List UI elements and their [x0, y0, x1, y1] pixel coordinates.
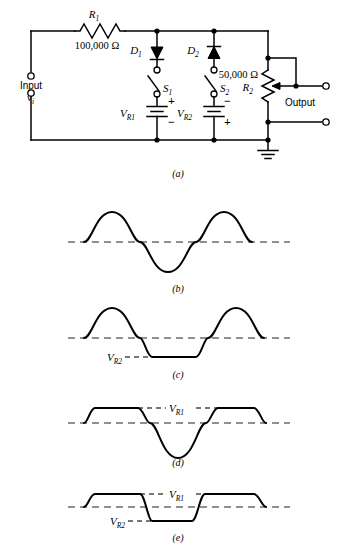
- waveform-panel-e: VR1 VR2 (e): [68, 488, 290, 544]
- vr2-plus-sign: +: [224, 115, 231, 129]
- junction-node-vr1-ground: [154, 137, 159, 142]
- input-label: Input: [20, 80, 42, 91]
- junction-node-vr2-ground: [211, 137, 216, 142]
- panel-c-vr2-label: VR2: [107, 351, 122, 366]
- s1-terminal-bottom: [154, 91, 160, 97]
- panel-e-vr1-label: VR1: [169, 488, 184, 503]
- r1-name-label: R1: [88, 8, 99, 23]
- resistor-r1-symbol: [75, 24, 125, 38]
- panel-a-id: (a): [172, 168, 184, 180]
- d1-label: D1: [129, 44, 142, 59]
- clipper-circuit-figure: Input vi R1 100,000 Ω D1 S1 + − VR1: [0, 0, 356, 553]
- output-terminal-bottom[interactable]: [323, 119, 329, 125]
- output-terminal-top[interactable]: [323, 83, 329, 89]
- r2-tap-loop: [268, 58, 296, 86]
- waveform-panel-c: VR2 (c): [68, 308, 290, 381]
- panel-e-id: (e): [172, 532, 184, 544]
- s2-blade[interactable]: [205, 76, 216, 91]
- r2-wiper-arrow: [272, 83, 280, 90]
- vr1-minus-sign: −: [168, 115, 175, 129]
- s2-terminal-bottom: [211, 91, 217, 97]
- output-label: Output: [285, 97, 315, 108]
- circuit-schematic: Input vi R1 100,000 Ω D1 S1 + − VR1: [20, 8, 329, 180]
- s1-blade[interactable]: [148, 76, 159, 91]
- panel-d-vr1-label: VR1: [169, 402, 184, 417]
- panel-b-id: (b): [172, 283, 184, 295]
- r2-name-label: R2: [242, 81, 254, 96]
- vr1-label: VR1: [120, 107, 135, 122]
- d2-triangle: [208, 47, 220, 59]
- d1-triangle: [151, 47, 163, 59]
- r2-value-label: 50,000 Ω: [219, 69, 259, 80]
- waveform-panel-b: (b): [68, 212, 290, 295]
- input-terminal-top[interactable]: [28, 73, 34, 79]
- panel-e-vr2-label: VR2: [110, 515, 125, 530]
- d2-label: D2: [186, 44, 199, 59]
- panel-c-clipped-curve: [84, 308, 264, 357]
- vr2-label: VR2: [177, 107, 192, 122]
- panel-d-id: (d): [172, 457, 184, 469]
- vr1-plus-sign: +: [168, 94, 175, 108]
- s2-terminal-top: [211, 67, 217, 73]
- waveform-panel-d: VR1 (d): [68, 402, 290, 469]
- r1-value-label: 100,000 Ω: [75, 40, 120, 51]
- s1-terminal-top: [154, 67, 160, 73]
- vr2-minus-sign: −: [224, 94, 231, 108]
- panel-c-id: (c): [172, 369, 184, 381]
